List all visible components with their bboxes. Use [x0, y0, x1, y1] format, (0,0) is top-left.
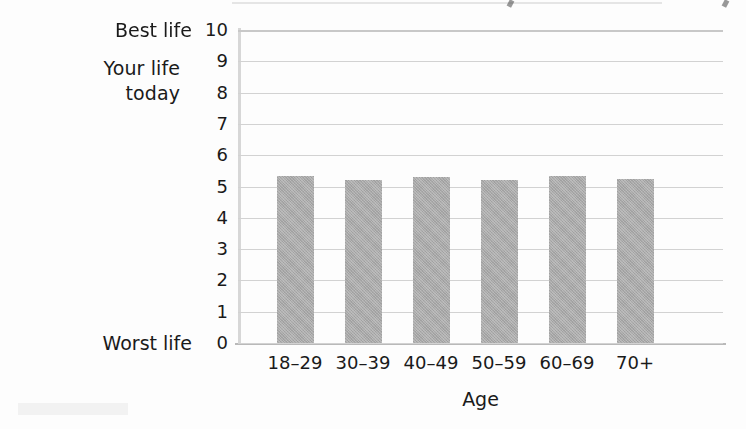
- y-axis-min-label-worst-life: Worst life: [58, 331, 192, 355]
- y-axis-tick-label: 4: [194, 209, 228, 227]
- y-axis-tick-label: 1: [194, 303, 228, 321]
- bar: [549, 176, 586, 343]
- y-axis-tick-label: 2: [194, 271, 228, 289]
- scan-artifact-top-rule: [232, 2, 662, 4]
- plot-area: [238, 30, 723, 343]
- gridline: [238, 343, 723, 344]
- gridline: [238, 124, 723, 125]
- y-axis-tick-label: 9: [194, 52, 228, 70]
- gridline: [238, 61, 723, 62]
- gridline: [238, 30, 723, 32]
- y-axis-max-label-best-life: Best life: [58, 18, 192, 42]
- y-axis-tick-label: 6: [194, 146, 228, 164]
- gridline: [238, 93, 723, 94]
- y-axis-tick-label: 7: [194, 115, 228, 133]
- gridline: [238, 155, 723, 156]
- y-axis-title-line-1: Your life: [8, 56, 180, 81]
- bar: [345, 180, 382, 343]
- bar-chart-figure: Your life today Best life Worst life 012…: [0, 0, 746, 429]
- scan-artifact-mark: [507, 0, 515, 8]
- y-axis-tick-label: 3: [194, 240, 228, 258]
- bar: [277, 176, 314, 343]
- x-axis-title: Age: [238, 388, 723, 410]
- bar: [413, 177, 450, 343]
- bar: [617, 179, 654, 343]
- y-axis-title: Your life today: [8, 56, 180, 106]
- y-axis-tick-label: 5: [194, 178, 228, 196]
- y-axis-tick-label: 0: [194, 334, 228, 352]
- scan-artifact-mark: [722, 0, 730, 8]
- bar: [481, 180, 518, 343]
- x-axis-category-label: 70+: [592, 353, 678, 373]
- y-axis-tick-label: 10: [194, 21, 228, 39]
- scan-artifact-smudge: [18, 403, 128, 415]
- y-axis-tick-label: 8: [194, 84, 228, 102]
- y-axis-title-line-2: today: [8, 81, 180, 106]
